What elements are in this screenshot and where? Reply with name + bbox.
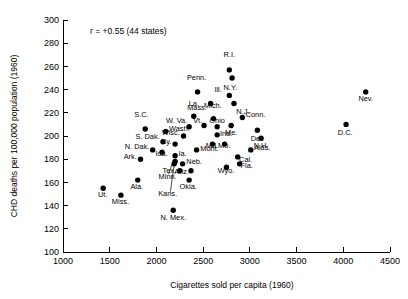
data-point-label: Wisc. [162,128,180,137]
data-point-label: N. Dak. [125,142,150,151]
data-point-label: Penn. [187,73,206,82]
data-point-label: S.C. [134,110,148,119]
data-point-label: Wyo. [218,166,235,175]
scatter-plot-figure: 100120140160180200220240260280300 100015… [0,0,408,299]
data-point-label: Ida. [155,149,167,158]
data-point-label: D.C. [338,128,353,137]
data-point-label: N.Y. [224,83,237,92]
data-point-labels: R.I.N.Y.Ill.N.J.Penn.Mass.Conn.Nev.D.C.D… [98,50,373,221]
chart-canvas: 100120140160180200220240260280300 100015… [0,0,408,299]
data-point [195,89,200,94]
y-tick-label: 280 [44,38,59,48]
data-point-label: Ky. [161,137,171,146]
data-point [180,161,185,166]
data-point-label: La. [189,99,199,108]
data-point-label: Mo. [218,141,230,150]
data-point-label: Kans. [158,189,177,198]
data-point-label: Neb. [186,157,202,166]
data-point [138,157,143,162]
y-tick-label: 220 [44,108,59,118]
x-tick-label: 2500 [193,256,213,266]
y-tick-label: 180 [44,154,59,164]
data-point [143,126,148,131]
data-point-label: S. Dak. [135,132,159,141]
x-tick-label: 3000 [240,256,260,266]
data-point-label: Mich. [204,101,222,110]
data-point-label: N. Mex. [161,213,186,222]
y-tick-label: 240 [44,85,59,95]
x-tick-label: 2000 [146,256,166,266]
x-axis-tick-labels: 10001500200025003000350040004500 [53,256,400,266]
data-point-label: Ohio [209,116,225,125]
data-point [231,101,236,106]
y-axis-tick-labels: 100120140160180200220240260280300 [44,15,59,257]
data-point-label: Conn. [246,110,266,119]
data-point-label: Ind. [220,129,232,138]
data-point-label: N.H. [254,141,269,150]
y-tick-label: 200 [44,131,59,141]
y-tick-label: 300 [44,15,59,25]
data-point [343,122,348,127]
data-point [194,147,199,152]
y-tick-label: 120 [44,224,59,234]
data-point-label: Fla. [241,161,253,170]
x-tick-label: 1500 [100,256,120,266]
data-point [181,133,186,138]
data-point-label: Okla. [180,182,197,191]
data-point-label: Ala. [130,182,143,191]
data-point [172,153,177,158]
data-point [227,67,232,72]
data-point [227,93,232,98]
y-tick-label: 260 [44,62,59,72]
x-tick-label: 1000 [53,256,73,266]
y-tick-label: 160 [44,178,59,188]
data-point-label: Ariz. [174,167,189,176]
correlation-annotation: r = +0.55 (44 states) [90,26,167,36]
data-point-label: Ill. [214,85,221,94]
data-point-label: Nev. [358,94,373,103]
data-point-label: W. Va. [166,116,187,125]
data-point [255,128,260,133]
data-point-label: Miss. [112,197,129,206]
data-point-label: Ut. [98,190,107,199]
y-axis-title: CHD deaths per 100,000 population (1960) [9,55,19,218]
x-tick-label: 4500 [380,256,400,266]
x-axis-title: Cigarettes sold per capita (1960) [170,280,293,290]
data-point [172,141,177,146]
data-point [229,75,234,80]
data-point-label: R.I. [224,50,236,59]
data-point-label: Mont. [200,144,218,153]
data-point-label: Vt. [193,116,202,125]
x-tick-label: 4000 [333,256,353,266]
x-tick-label: 3500 [287,256,307,266]
data-point-label: Ark. [124,152,137,161]
y-tick-label: 140 [44,201,59,211]
